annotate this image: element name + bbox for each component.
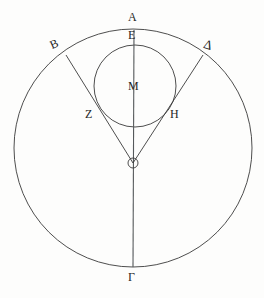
- diagram-canvas: [0, 0, 264, 298]
- vertical-diameter: [133, 30, 134, 267]
- tangent-line-theta-h-delta: [133, 55, 203, 163]
- point-label-zeta: Ζ: [85, 108, 92, 120]
- point-label-gamma: Γ: [128, 271, 135, 283]
- point-label-mu: Μ: [128, 80, 139, 92]
- point-label-epsilon: Ε: [128, 29, 135, 41]
- point-label-eta: Η: [170, 108, 179, 120]
- geometry-diagram: Α Ε Β Δ Ζ Η Μ Γ: [0, 0, 264, 298]
- tangent-line-theta-z-b: [66, 55, 133, 163]
- point-label-alpha: Α: [128, 11, 137, 23]
